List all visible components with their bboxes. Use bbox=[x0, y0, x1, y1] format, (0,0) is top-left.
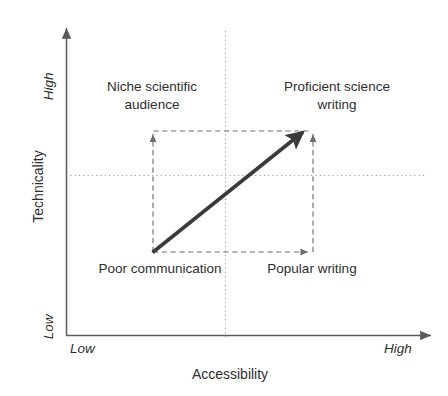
y-axis-high-label: High bbox=[40, 73, 57, 123]
progression-arrow bbox=[153, 132, 304, 253]
grid-lines bbox=[66, 31, 425, 337]
quadrant-label-bottom-left: Poor communication bbox=[82, 260, 238, 278]
quadrant-label-top-left-line1: Niche scientific bbox=[107, 79, 197, 94]
x-axis-high-label: High bbox=[384, 340, 430, 357]
quadrant-label-bottom-left-line1: Poor communication bbox=[98, 261, 221, 276]
axes bbox=[66, 28, 431, 336]
quadrant-label-bottom-right-line1: Popular writing bbox=[267, 261, 356, 276]
quadrant-label-top-left: Niche scientificaudience bbox=[86, 78, 218, 114]
diagram-canvas bbox=[0, 0, 448, 396]
quadrant-label-top-right: Proficient sciencewriting bbox=[262, 78, 412, 114]
quadrant-label-bottom-right: Popular writing bbox=[246, 260, 378, 278]
x-axis-low-label: Low bbox=[70, 340, 116, 357]
quadrant-label-top-right-line1: Proficient science bbox=[284, 79, 390, 94]
quadrant-label-top-left-line2: audience bbox=[125, 97, 180, 112]
y-axis-low-label: Low bbox=[40, 315, 57, 365]
y-axis-title: Technicality bbox=[30, 127, 47, 247]
progression-arrow-line bbox=[153, 132, 304, 253]
quadrant-diagram: Niche scientificaudience Proficient scie… bbox=[0, 0, 448, 396]
quadrant-label-top-right-line2: writing bbox=[317, 97, 356, 112]
x-axis-title: Accessibility bbox=[150, 366, 310, 383]
